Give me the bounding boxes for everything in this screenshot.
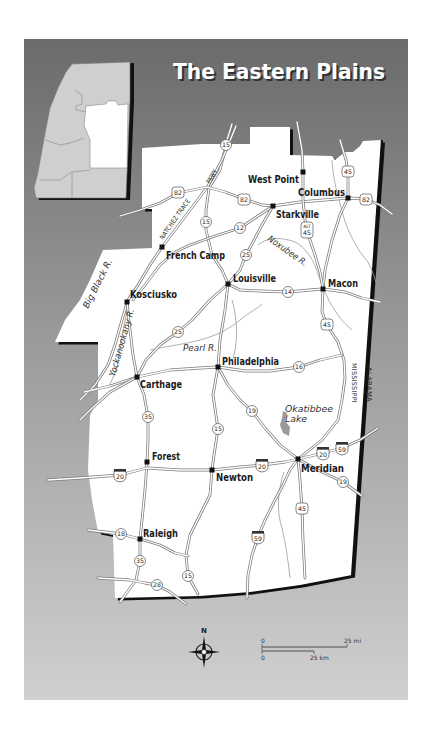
state-label-mississippi: MISSISSIPPI xyxy=(350,363,358,403)
interstate-shield: 20 xyxy=(317,447,329,460)
compass-north-label: N xyxy=(201,627,207,635)
svg-text:14: 14 xyxy=(284,288,292,295)
city-label: Philadelphia xyxy=(222,356,279,367)
us-alt-route-shield: ALT45 xyxy=(301,222,313,238)
scale-km-end: 25 km xyxy=(310,654,329,661)
city-marker-icon xyxy=(216,365,221,370)
state-route-shield: 25 xyxy=(241,250,252,261)
svg-text:35: 35 xyxy=(136,557,144,564)
city-label: French Camp xyxy=(166,250,225,261)
map-figure: The Eastern Plains The Eastern Plains xyxy=(0,0,432,735)
city-label: Newton xyxy=(216,472,253,483)
city-marker-icon xyxy=(160,245,165,250)
state-route-shield: 25 xyxy=(173,327,184,338)
svg-text:18: 18 xyxy=(117,530,125,537)
svg-text:12: 12 xyxy=(236,224,244,231)
svg-text:28: 28 xyxy=(153,581,161,588)
svg-text:25: 25 xyxy=(174,328,182,335)
svg-text:45: 45 xyxy=(323,321,331,328)
svg-text:15: 15 xyxy=(214,425,222,432)
city-marker-icon xyxy=(138,537,143,542)
svg-text:45: 45 xyxy=(303,229,311,236)
svg-text:59: 59 xyxy=(338,446,346,453)
city-label: Kosciusko xyxy=(130,289,177,300)
interstate-shield: 59 xyxy=(252,531,264,544)
city-label: Meridian xyxy=(301,463,344,474)
scale-km-start: 0 xyxy=(261,654,265,661)
us-route-shield: 45 xyxy=(296,503,308,514)
state-route-shield: 15 xyxy=(221,140,232,151)
city-marker-icon xyxy=(145,460,150,465)
scale-mi-end: 25 mi xyxy=(344,637,361,644)
state-route-shield: 15 xyxy=(213,424,224,435)
city-label: Carthage xyxy=(140,379,182,390)
svg-text:15: 15 xyxy=(202,218,210,225)
pearl-river-label: Pearl R. xyxy=(183,343,217,353)
city-label: Starkville xyxy=(276,209,319,220)
city-label: Columbus xyxy=(298,187,345,198)
state-route-shield: 19 xyxy=(247,406,258,417)
state-label-alabama: ALABAMA xyxy=(365,367,373,402)
svg-text:19: 19 xyxy=(339,478,347,485)
city-marker-icon xyxy=(301,170,306,175)
svg-text:45: 45 xyxy=(344,168,352,175)
city-marker-icon xyxy=(346,196,351,201)
interstate-shield: 59 xyxy=(336,442,348,455)
svg-text:25: 25 xyxy=(242,251,250,258)
city-label: Louisville xyxy=(233,273,276,284)
city-label: Raleigh xyxy=(143,528,178,539)
svg-text:35: 35 xyxy=(144,413,152,420)
state-route-shield: 35 xyxy=(143,412,154,423)
city-marker-icon xyxy=(296,457,301,462)
svg-text:15: 15 xyxy=(184,572,192,579)
city-label: West Point xyxy=(248,174,299,185)
lake-label-line1: Okatibbee xyxy=(285,404,333,414)
svg-text:82: 82 xyxy=(174,189,182,196)
city-marker-icon xyxy=(135,375,140,380)
state-route-shield: 14 xyxy=(283,287,294,298)
scale-mi-start: 0 xyxy=(261,637,265,644)
city-label: Forest xyxy=(152,451,180,462)
us-route-shield: 82 xyxy=(172,187,184,198)
state-route-shield: 28 xyxy=(152,580,163,591)
city-label: Macon xyxy=(328,278,358,289)
lake-label-line2: Lake xyxy=(285,414,307,424)
svg-text:16: 16 xyxy=(295,363,303,370)
state-route-shield: 16 xyxy=(294,362,305,373)
title-text: The Eastern Plains xyxy=(173,60,385,84)
city-marker-icon xyxy=(210,468,215,473)
svg-text:45: 45 xyxy=(298,505,306,512)
svg-text:82: 82 xyxy=(362,196,370,203)
city-marker-icon xyxy=(321,287,326,292)
svg-text:15: 15 xyxy=(222,141,230,148)
interstate-shield: 20 xyxy=(256,459,268,472)
inset-eastern-plains-highlight xyxy=(84,101,128,168)
city-marker-icon xyxy=(271,204,276,209)
state-route-shield: 15 xyxy=(183,571,194,582)
us-route-shield: 82 xyxy=(238,194,250,205)
svg-text:82: 82 xyxy=(240,196,248,203)
svg-text:20: 20 xyxy=(258,463,266,470)
state-route-shield: 35 xyxy=(135,556,146,567)
us-route-shield: 82 xyxy=(360,194,372,205)
svg-text:19: 19 xyxy=(248,407,256,414)
svg-text:20: 20 xyxy=(319,451,327,458)
map-title: The Eastern Plains The Eastern Plains xyxy=(173,60,387,86)
interstate-shield: 20 xyxy=(114,469,126,482)
svg-text:20: 20 xyxy=(116,473,124,480)
svg-text:59: 59 xyxy=(254,535,262,542)
city-marker-icon xyxy=(125,300,130,305)
state-route-shield: 12 xyxy=(235,223,246,234)
city-marker-icon xyxy=(226,282,231,287)
state-route-shield: 15 xyxy=(201,217,212,228)
us-route-shield: 45 xyxy=(321,319,333,330)
state-route-shield: 19 xyxy=(338,477,349,488)
state-route-shield: 18 xyxy=(116,529,127,540)
us-route-shield: 45 xyxy=(342,166,354,177)
